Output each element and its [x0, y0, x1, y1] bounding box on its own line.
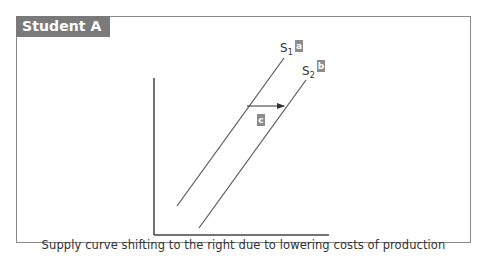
tag-b: b — [317, 60, 325, 72]
tag-a: a — [295, 40, 303, 52]
s1-label: S1 — [280, 42, 293, 59]
s2-label-subscript: 2 — [310, 71, 315, 80]
supply-shift-diagram — [0, 0, 493, 275]
s1-label-subscript: 1 — [288, 48, 293, 57]
s2-label: S2 — [302, 65, 315, 82]
s2-label-text: S — [302, 64, 310, 78]
tag-c: c — [257, 114, 265, 126]
s1-label-text: S — [280, 41, 288, 55]
diagram-caption: Supply curve shifting to the right due t… — [16, 238, 471, 252]
